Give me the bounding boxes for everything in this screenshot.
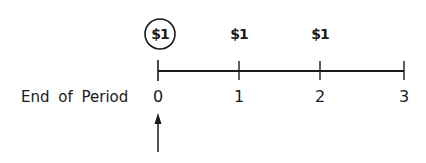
axis-title: End of Period xyxy=(21,88,128,106)
period-label-1: 1 xyxy=(234,87,244,106)
cash-flow-period-0: $1 xyxy=(151,26,168,42)
timeline-graphic xyxy=(0,0,426,163)
period-label-2: 2 xyxy=(315,87,325,106)
period-label-3: 3 xyxy=(399,87,409,106)
period-label-0: 0 xyxy=(153,87,163,106)
cash-flow-period-1: $1 xyxy=(230,26,247,42)
up-arrow-icon xyxy=(155,113,162,152)
cash-flow-period-2: $1 xyxy=(311,26,328,42)
cash-flow-timeline-diagram: $1 $1 $1 End of Period 0 1 2 3 xyxy=(0,0,426,163)
